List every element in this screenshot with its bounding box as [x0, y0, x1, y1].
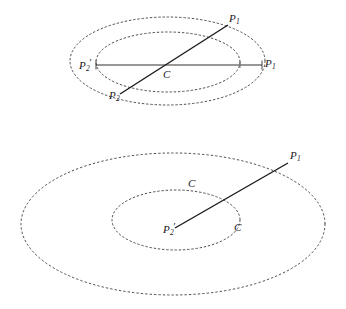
prime-mark-icon: ′ — [173, 221, 175, 232]
bottom-inner-ellipse — [112, 190, 240, 250]
prime-mark-icon: ′ — [89, 57, 91, 68]
label-p2-lower-base: P — [109, 89, 116, 101]
label-bottom-p2-base: P — [163, 223, 170, 235]
label-center-c-base: C — [163, 68, 170, 80]
label-p2-prime-left: P2′ — [79, 58, 92, 73]
top-inner-ellipse — [96, 32, 240, 92]
label-bottom-c-lower: C — [234, 222, 241, 233]
label-p1-right: P1 — [265, 58, 276, 71]
bottom-radius-segment — [175, 163, 288, 228]
label-p1-upper-sub: 1 — [236, 17, 240, 26]
label-p2-lower: P2 — [109, 90, 120, 103]
label-bottom-c-upper-base: C — [188, 177, 195, 189]
label-bottom-c-lower-base: C — [234, 221, 241, 233]
label-p1-upper: P1 — [229, 13, 240, 26]
label-bottom-p1-sub: 1 — [297, 154, 301, 163]
label-p1-upper-base: P — [229, 12, 236, 24]
label-p2-prime-left-base: P — [79, 59, 86, 71]
label-p2-lower-sub: 2 — [116, 94, 120, 103]
label-center-c: C — [163, 69, 170, 80]
label-p1-right-sub: 1 — [272, 62, 276, 71]
label-bottom-p1-base: P — [290, 149, 297, 161]
label-bottom-p2-prime: P2′ — [163, 222, 176, 237]
label-bottom-p1: P1 — [290, 150, 301, 163]
label-p1-right-base: P — [265, 57, 272, 69]
figure-root: P1 P1 P2′ P2 C P1 P2′ C C — [0, 0, 346, 309]
label-bottom-c-upper: C — [188, 178, 195, 189]
top-diagram — [70, 17, 265, 105]
